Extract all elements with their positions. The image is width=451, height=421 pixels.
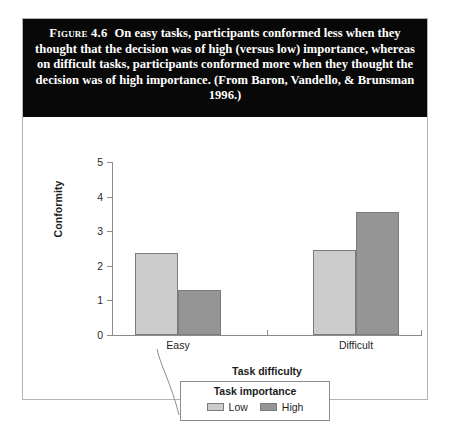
- x-tick-mark: [112, 330, 113, 335]
- y-axis-title: Conformity: [52, 154, 64, 264]
- y-tick-mark: [107, 162, 112, 163]
- legend-items: Low High: [181, 401, 329, 413]
- legend-label-low: Low: [229, 401, 248, 413]
- figure-caption-band: Figure 4.6On easy tasks, participants co…: [23, 19, 427, 117]
- bar-easy-high: [178, 290, 221, 335]
- legend-label-high: High: [282, 401, 304, 413]
- y-tick-label: 2: [85, 261, 103, 271]
- x-tick-mark: [421, 330, 422, 335]
- bar-difficult-low: [313, 250, 356, 335]
- figure-number-label: Figure 4.6: [49, 26, 107, 40]
- figure-caption-text: Figure 4.6On easy tasks, participants co…: [33, 26, 417, 104]
- legend-item-high: High: [260, 401, 304, 413]
- y-tick-mark: [107, 335, 112, 336]
- y-tick-mark: [107, 231, 112, 232]
- y-tick-label: 4: [85, 192, 103, 202]
- y-tick-label: 3: [85, 226, 103, 236]
- x-category-label-difficult: Difficult: [306, 339, 406, 351]
- x-axis-line: [112, 335, 422, 336]
- chart-legend: Task importance Low High: [180, 381, 330, 421]
- y-tick-label: 0: [85, 330, 103, 340]
- y-tick-label: 5: [85, 157, 103, 167]
- y-tick-mark: [107, 300, 112, 301]
- legend-item-low: Low: [207, 401, 248, 413]
- x-tick-mark: [267, 330, 268, 335]
- chart-plot-area: Conformity 5 4 3 2 1 0 Easy Difficult Ta…: [23, 117, 427, 401]
- y-axis-line: [112, 162, 113, 335]
- y-tick-label: 1: [85, 295, 103, 305]
- figure-container: Figure 4.6On easy tasks, participants co…: [22, 18, 428, 400]
- legend-title: Task importance: [181, 385, 329, 398]
- bar-difficult-high: [356, 212, 399, 335]
- legend-swatch-high: [260, 403, 277, 411]
- y-tick-mark: [107, 197, 112, 198]
- y-tick-mark: [107, 266, 112, 267]
- bar-easy-low: [135, 253, 178, 335]
- legend-swatch-low: [207, 403, 224, 411]
